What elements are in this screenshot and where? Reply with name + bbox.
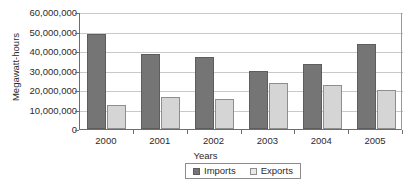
gridline — [80, 52, 403, 53]
bar-imports-2003 — [249, 71, 268, 129]
gridline — [80, 91, 403, 92]
chart-legend: ImportsExports — [185, 163, 301, 179]
x-axis-tick-label: 2002 — [184, 136, 244, 146]
y-axis-tick-label: 30,000,000 — [5, 67, 77, 76]
bar-imports-2001 — [141, 54, 160, 129]
x-axis-title: Years — [0, 150, 411, 161]
bar-exports-2001 — [161, 97, 180, 129]
bar-exports-2005 — [377, 90, 396, 129]
gridline — [80, 72, 403, 73]
bar-imports-2002 — [195, 57, 214, 129]
legend-swatch-exports-icon — [250, 168, 257, 175]
gridline — [80, 13, 403, 14]
y-axis-tick-mark — [75, 13, 79, 14]
legend-item-exports[interactable]: Exports — [250, 166, 293, 176]
y-axis-tick-mark — [75, 130, 79, 131]
bar-chart: Megawatt-hours 010,000,00020,000,00030,0… — [0, 0, 411, 187]
plot-right-border — [401, 13, 402, 130]
gridline — [80, 111, 403, 112]
legend-swatch-imports-icon — [193, 168, 200, 175]
legend-label: Imports — [204, 166, 236, 176]
x-axis-tick-label: 2005 — [345, 136, 405, 146]
legend-item-imports[interactable]: Imports — [193, 166, 236, 176]
y-axis-tick-mark — [75, 91, 79, 92]
y-axis-tick-label: 50,000,000 — [5, 28, 77, 37]
y-axis-tick-mark — [75, 72, 79, 73]
x-axis-tick-mark — [241, 130, 242, 134]
x-axis-tick-mark — [187, 130, 188, 134]
y-axis-tick-label: 20,000,000 — [5, 86, 77, 95]
x-axis-tick-label: 2003 — [237, 136, 297, 146]
bar-exports-2004 — [323, 85, 342, 129]
y-axis-tick-label: 0 — [5, 125, 77, 134]
x-axis-tick-label: 2004 — [291, 136, 351, 146]
x-axis-tick-label: 2001 — [130, 136, 190, 146]
y-axis-tick-mark — [75, 52, 79, 53]
y-axis-tick-label: 40,000,000 — [5, 47, 77, 56]
x-axis-tick-label: 2000 — [76, 136, 136, 146]
x-axis-tick-mark — [294, 130, 295, 134]
bar-exports-2003 — [269, 83, 288, 129]
bar-imports-2004 — [303, 64, 322, 129]
bar-exports-2002 — [215, 99, 234, 129]
x-axis-tick-mark — [402, 130, 403, 134]
x-axis-tick-mark — [348, 130, 349, 134]
y-axis-tick-mark — [75, 33, 79, 34]
bar-imports-2000 — [87, 34, 106, 129]
y-axis-tick-label: 60,000,000 — [5, 8, 77, 17]
x-axis-tick-mark — [133, 130, 134, 134]
y-axis-tick-label: 10,000,000 — [5, 106, 77, 115]
plot-area — [79, 13, 402, 130]
legend-label: Exports — [261, 166, 293, 176]
bar-exports-2000 — [107, 105, 126, 129]
bar-imports-2005 — [357, 44, 376, 129]
gridline — [80, 33, 403, 34]
y-axis-tick-mark — [75, 111, 79, 112]
